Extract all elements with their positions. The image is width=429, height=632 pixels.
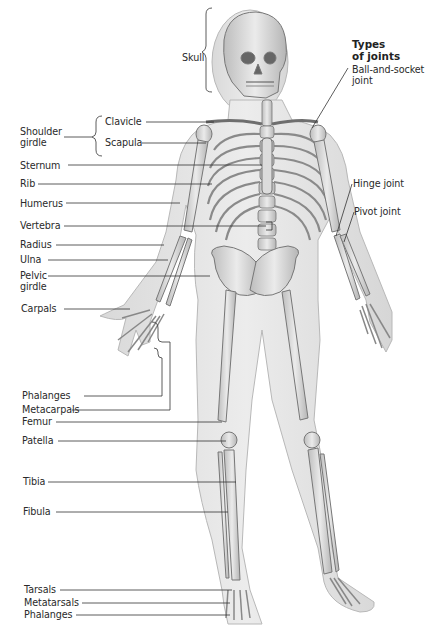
label-metacarpals: Metacarpals (22, 404, 79, 415)
label-hinge-joint: Hinge joint (353, 178, 404, 189)
label-skull: Skull (182, 52, 204, 63)
shoulder-brace (92, 116, 102, 156)
label-pelvic-girdle-line2: girdle (20, 281, 47, 292)
label-pelvic-girdle-line1: Pelvic (20, 270, 47, 281)
label-phalanges-foot: Phalanges (24, 609, 72, 620)
label-radius: Radius (20, 239, 52, 250)
types-of-joints-line1: Types (352, 38, 400, 50)
label-shoulder-girdle-line1: Shoulder (20, 126, 62, 137)
label-rib: Rib (20, 178, 35, 189)
label-clavicle: Clavicle (105, 116, 142, 127)
ball-socket-leader (312, 68, 348, 128)
skeleton-diagram: Types of joints Skull Shoulder girdle Cl… (0, 0, 429, 632)
label-pivot-joint: Pivot joint (354, 206, 401, 217)
label-pelvic-girdle: Pelvic girdle (20, 270, 47, 292)
skull-brace (202, 8, 212, 92)
label-humerus: Humerus (20, 198, 63, 209)
label-fibula: Fibula (23, 506, 51, 517)
label-phalanges-hand: Phalanges (22, 390, 70, 401)
types-of-joints-title: Types of joints (352, 38, 400, 62)
label-ulna: Ulna (20, 254, 41, 265)
types-of-joints-line2: of joints (352, 50, 400, 62)
left-patella (221, 432, 237, 448)
label-scapula: Scapula (105, 137, 142, 148)
label-sternum: Sternum (20, 160, 60, 171)
label-shoulder-girdle-line2: girdle (20, 137, 62, 148)
label-vertebra: Vertebra (20, 220, 60, 231)
label-carpals: Carpals (21, 303, 56, 314)
label-femur: Femur (22, 416, 52, 427)
label-shoulder-girdle: Shoulder girdle (20, 126, 62, 148)
label-tarsals: Tarsals (24, 584, 56, 595)
label-tibia: Tibia (23, 476, 45, 487)
label-ball-and-socket-line1: Ball-and-socket (352, 64, 424, 75)
body-silhouette (100, 10, 392, 624)
label-ball-and-socket-joint: Ball-and-socket joint (352, 64, 424, 86)
skeleton-illustration (0, 0, 429, 632)
label-metatarsals: Metatarsals (24, 597, 79, 608)
right-patella (304, 432, 320, 448)
label-ball-and-socket-line2: joint (352, 75, 424, 86)
sternum-bone (262, 138, 272, 194)
label-patella: Patella (22, 435, 53, 446)
